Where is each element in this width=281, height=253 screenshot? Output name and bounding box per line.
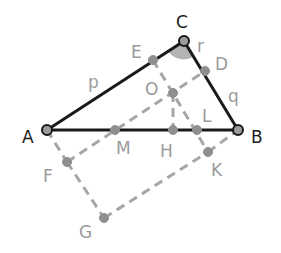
segment-gk [104, 152, 208, 218]
label-h: H [160, 141, 173, 161]
vertex-c [179, 36, 189, 46]
point-h [169, 126, 178, 135]
geometry-diagram: A B C E D O L M H F K G p q r [0, 0, 281, 253]
point-k [204, 148, 213, 157]
point-o [169, 89, 178, 98]
point-l [193, 126, 202, 135]
label-l: L [202, 106, 212, 126]
point-f [63, 158, 72, 167]
label-g: G [79, 222, 92, 242]
label-a: A [22, 127, 34, 147]
auxiliary-points [63, 56, 213, 223]
label-e: E [131, 42, 142, 62]
point-e [149, 56, 158, 65]
point-m [111, 126, 120, 135]
label-c: C [176, 12, 188, 32]
main-vertices [42, 36, 243, 135]
point-g [100, 214, 109, 223]
label-d: D [215, 54, 228, 74]
label-m: M [116, 138, 131, 158]
label-side-p: p [88, 72, 99, 92]
label-side-q: q [228, 86, 239, 106]
label-k: K [211, 160, 223, 180]
label-f: F [43, 166, 53, 186]
point-d [201, 67, 210, 76]
label-side-r: r [197, 36, 204, 56]
vertex-b [233, 125, 243, 135]
segment-ek [153, 60, 208, 152]
segment-fg [67, 162, 104, 218]
label-o: O [145, 79, 158, 99]
vertex-a [42, 125, 52, 135]
label-b: B [251, 127, 263, 147]
side-ac [47, 41, 184, 130]
